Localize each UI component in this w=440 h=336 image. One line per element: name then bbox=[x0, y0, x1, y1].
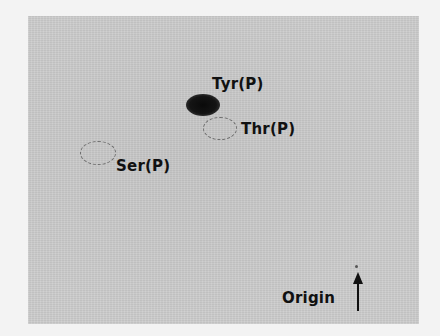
label-tyr-p: Tyr(P) bbox=[212, 75, 264, 93]
ser-phospho-marker-ring bbox=[80, 141, 116, 165]
tyr-phospho-spot bbox=[186, 94, 220, 116]
thr-phospho-marker-ring bbox=[203, 117, 237, 140]
label-ser-p: Ser(P) bbox=[116, 157, 170, 175]
label-thr-p: Thr(P) bbox=[241, 120, 295, 138]
label-origin: Origin bbox=[282, 289, 335, 307]
origin-point bbox=[355, 265, 358, 268]
origin-arrow-shaft bbox=[357, 280, 359, 311]
